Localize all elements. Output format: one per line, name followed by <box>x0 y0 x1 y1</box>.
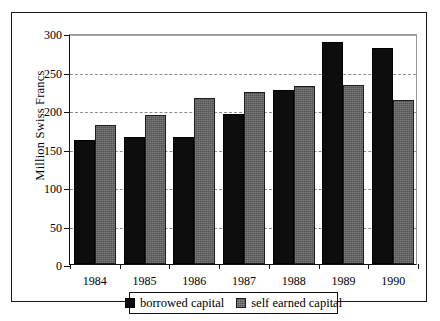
bar-1985-self-earned-capital <box>145 115 166 264</box>
x-axis-tick <box>319 264 320 269</box>
x-axis-tick <box>368 264 369 269</box>
figure-root: Million Swiss Francs 0501001502002503001… <box>0 0 440 321</box>
bar-1989-self-earned-capital <box>343 85 364 264</box>
bar-1988-self-earned-capital <box>294 86 315 264</box>
bar-1988-borrowed-capital <box>273 90 294 264</box>
bar-1987-borrowed-capital <box>223 114 244 264</box>
y-axis-tick-label: 150 <box>24 145 62 157</box>
bar-1985-borrowed-capital <box>124 137 145 264</box>
legend-item-borrowed: borrowed capital <box>125 296 224 311</box>
bar-1984-self-earned-capital <box>95 125 116 264</box>
y-axis-tick <box>64 189 70 190</box>
legend: borrowed capital self earned capital <box>129 292 338 314</box>
bar-1986-borrowed-capital <box>173 137 194 264</box>
y-axis-tick <box>64 35 70 36</box>
bar-1990-borrowed-capital <box>372 48 393 264</box>
plot-inner: 0501001502002503001984198519861987198819… <box>70 35 416 264</box>
y-axis-tick <box>64 151 70 152</box>
bar-1989-borrowed-capital <box>322 42 343 264</box>
bar-1990-self-earned-capital <box>393 100 414 264</box>
y-axis-tick-label: 250 <box>24 68 62 80</box>
gridline <box>70 74 416 75</box>
x-axis-tick-label-1990: 1990 <box>363 274 423 289</box>
legend-label-self-earned: self earned capital <box>251 296 342 311</box>
plot-area: 0501001502002503001984198519861987198819… <box>69 34 417 265</box>
x-axis-tick <box>269 264 270 269</box>
y-axis-tick-label: 300 <box>24 29 62 41</box>
figure-frame: Million Swiss Francs 0501001502002503001… <box>11 12 427 302</box>
legend-swatch-self-earned-icon <box>236 298 246 308</box>
gridline <box>70 35 416 36</box>
x-axis-tick <box>70 264 71 269</box>
y-axis-tick <box>64 74 70 75</box>
y-axis-tick <box>64 112 70 113</box>
legend-label-borrowed: borrowed capital <box>140 296 224 311</box>
x-axis-tick <box>418 264 419 269</box>
y-axis-tick <box>64 228 70 229</box>
bar-1987-self-earned-capital <box>244 92 265 264</box>
bar-1984-borrowed-capital <box>74 140 95 264</box>
x-axis-tick <box>169 264 170 269</box>
x-axis-tick <box>120 264 121 269</box>
y-axis-tick-label: 50 <box>24 222 62 234</box>
y-axis-tick-label: 200 <box>24 106 62 118</box>
legend-swatch-borrowed-icon <box>125 298 135 308</box>
legend-item-self-earned: self earned capital <box>236 296 342 311</box>
y-axis-tick-label: 0 <box>24 260 62 272</box>
x-axis-tick <box>219 264 220 269</box>
bar-1986-self-earned-capital <box>194 98 215 264</box>
y-axis-tick-label: 100 <box>24 183 62 195</box>
